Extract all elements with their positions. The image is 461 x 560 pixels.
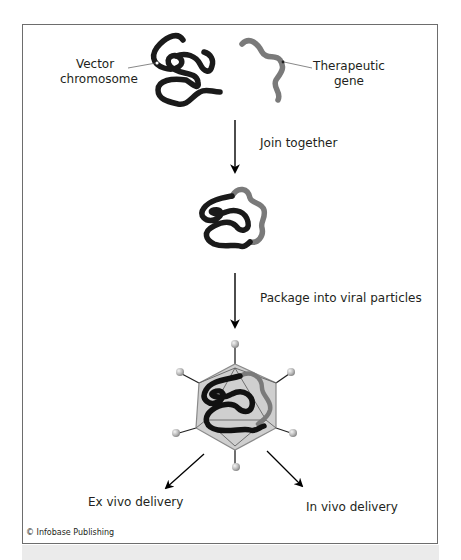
label-therapeutic-gene: Therapeutic gene	[313, 59, 385, 89]
label-ex-vivo: Ex vivo delivery	[88, 495, 183, 510]
label-join-together: Join together	[260, 136, 337, 151]
credit-text: © Infobase Publishing	[26, 528, 114, 537]
label-in-vivo: In vivo delivery	[306, 500, 398, 515]
gene-leader-line	[284, 62, 312, 68]
viral-particle-icon	[172, 340, 297, 471]
label-vector-line2: chromosome	[60, 72, 130, 87]
therapeutic-gene-icon	[242, 41, 284, 100]
label-package: Package into viral particles	[260, 291, 422, 306]
vector-leader-line	[128, 63, 156, 68]
label-vector-line1: Vector	[60, 57, 130, 72]
arrow-in-vivo	[267, 451, 302, 486]
recombinant-dna-icon	[202, 189, 265, 246]
label-vector-chromosome: Vector chromosome	[60, 57, 130, 87]
vector-chromosome-icon	[154, 36, 220, 105]
label-gene-line1: Therapeutic	[313, 59, 385, 74]
arrow-ex-vivo	[166, 454, 204, 488]
label-gene-line2: gene	[313, 74, 385, 89]
